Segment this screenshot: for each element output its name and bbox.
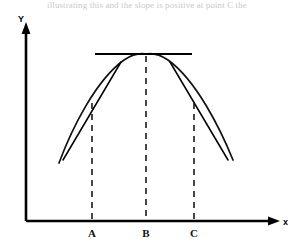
droplines-group [92,56,194,221]
point-label-a: A [88,227,96,239]
x-axis-arrowhead [268,217,280,226]
tangent-line-at-c [170,62,228,160]
point-label-c: C [190,227,198,239]
parabola-tangent-diagram: Y x A B C [0,0,294,244]
axes-group: Y x [18,14,288,227]
figure-root: illustrating this and the slope is posit… [0,0,294,244]
y-axis-label: Y [18,14,24,24]
point-labels-group: A B C [88,227,198,239]
point-label-b: B [142,227,150,239]
x-axis-label: x [283,217,288,227]
tangent-line-at-a [63,62,121,160]
